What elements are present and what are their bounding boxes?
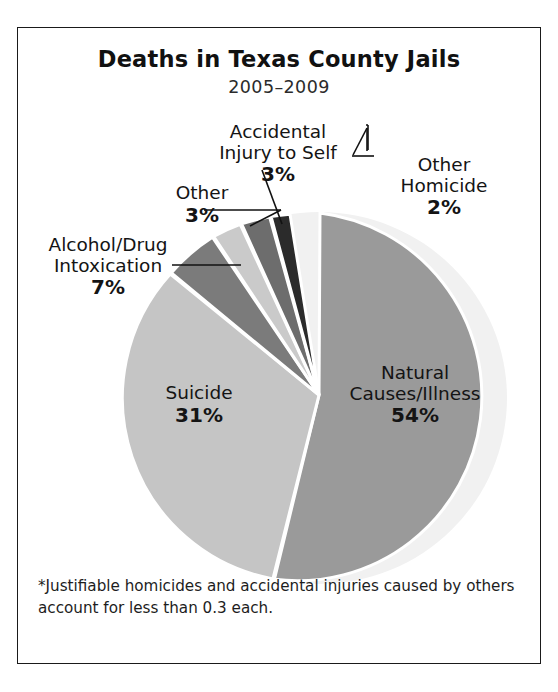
slice-label-accidental-injury: Accidental Injury to Self 3% <box>203 122 353 186</box>
label-text-accidental-1: Accidental <box>230 121 326 142</box>
label-pct-homicide: 2% <box>374 196 514 218</box>
chart-footnote: *Justifiable homicides and accidental in… <box>38 576 516 619</box>
label-text-natural-1: Natural <box>381 362 449 383</box>
label-text-alcohol-1: Alcohol/Drug <box>48 234 167 255</box>
slice-label-suicide: Suicide 31% <box>134 383 264 426</box>
label-text-other: Other <box>176 182 229 203</box>
label-text-alcohol-2: Intoxication <box>54 255 162 276</box>
label-text-suicide: Suicide <box>165 382 232 403</box>
slice-label-natural-causes: Natural Causes/Illness 54% <box>320 363 510 427</box>
chart-figure-frame: Deaths in Texas County Jails 2005–2009 <box>17 27 541 664</box>
label-pct-alcohol: 7% <box>24 276 192 298</box>
slice-label-alcohol-drug: Alcohol/Drug Intoxication 7% <box>24 235 192 299</box>
label-pct-natural: 54% <box>320 404 510 426</box>
label-text-homicide-2: Homicide <box>401 175 488 196</box>
label-text-homicide-1: Other <box>418 154 471 175</box>
slice-label-other: Other 3% <box>166 183 238 226</box>
slice-label-other-homicide: Other Homicide 2% <box>374 155 514 219</box>
label-text-accidental-2: Injury to Self <box>219 142 337 163</box>
label-pct-suicide: 31% <box>134 404 264 426</box>
label-text-natural-2: Causes/Illness <box>350 383 481 404</box>
label-pct-other: 3% <box>166 204 238 226</box>
leader-line-homicide-b <box>353 128 367 155</box>
